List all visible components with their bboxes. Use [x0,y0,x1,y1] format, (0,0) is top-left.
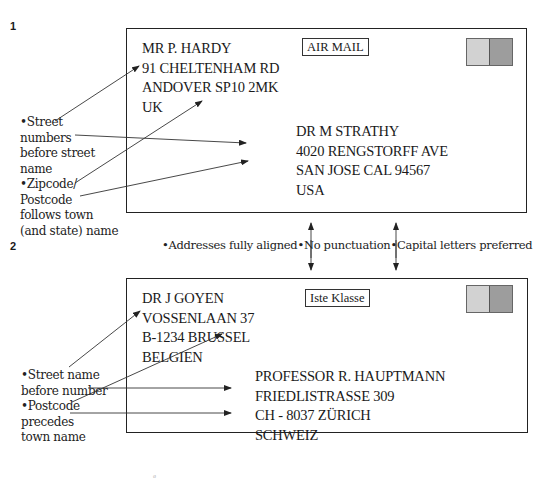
figure-label-1: 1 [10,20,16,32]
note-line: follows town [20,208,118,224]
recipient-line: PROFESSOR R. HAUPTMANN [255,367,445,387]
sender-address-1: MR P. HARDY 91 CHELTENHAM RD ANDOVER SP1… [142,39,279,117]
note-line: before street [20,146,118,162]
recipient-line: SAN JOSE CAL 94567 [296,161,448,181]
recipient-line: DR M STRATHY [296,122,448,142]
note-line: •Street [20,115,118,131]
notes-envelope-2: •Street name before number •Postcode pre… [21,368,108,446]
note-line: name [20,162,118,178]
svg-text:ø: ø [153,473,156,479]
note-line: precedes [21,415,108,431]
sender-line: UK [142,98,279,118]
recipient-line: USA [296,181,448,201]
guidelines-caption: •Addresses fully aligned•No punctuation•… [162,238,532,252]
notes-envelope-1: •Street numbers before street name •Zipc… [20,115,118,239]
recipient-line: 4020 RENGSTORFF AVE [296,142,448,162]
sender-line: B-1234 BRUSSEL [142,328,254,348]
sender-line: BELGIEN [142,348,254,368]
recipient-address-2: PROFESSOR R. HAUPTMANN FRIEDLISTRASSE 30… [255,367,445,445]
stamp-icon [466,285,513,313]
note-line: before number [21,384,108,400]
stamp-icon [466,38,513,66]
sender-line: 91 CHELTENHAM RD [142,59,279,79]
first-class-tag: Iste Klasse [305,289,370,307]
sender-line: MR P. HARDY [142,39,279,59]
note-line: •Zipcode/ [20,177,118,193]
recipient-line: CH - 8037 ZÜRICH [255,406,445,426]
note-line: •Postcode [21,399,108,415]
sender-line: DR J GOYEN [142,289,254,309]
recipient-address-1: DR M STRATHY 4020 RENGSTORFF AVE SAN JOS… [296,122,448,200]
recipient-line: FRIEDLISTRASSE 309 [255,387,445,407]
note-line: numbers [20,131,118,147]
sender-address-2: DR J GOYEN VOSSENLAAN 37 B-1234 BRUSSEL … [142,289,254,367]
figure-label-2: 2 [10,240,16,252]
note-line: •Street name [21,368,108,384]
sender-line: VOSSENLAAN 37 [142,309,254,329]
air-mail-tag: AIR MAIL [302,38,369,56]
recipient-line: SCHWEIZ [255,426,445,446]
note-line: (and state) name [20,224,118,240]
sender-line: ANDOVER SP10 2MK [142,78,279,98]
note-line: Postcode [20,193,118,209]
note-line: town name [21,430,108,446]
